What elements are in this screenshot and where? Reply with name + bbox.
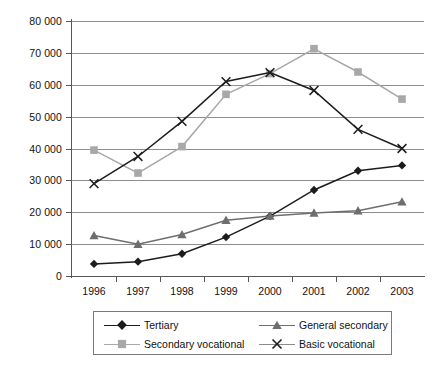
legend-item-general-secondary: General secondary xyxy=(259,317,388,333)
data-point xyxy=(178,143,186,151)
data-point xyxy=(222,91,230,99)
legend-item-basic-vocational: Basic vocational xyxy=(259,336,375,352)
data-point xyxy=(178,249,186,257)
data-point xyxy=(134,257,142,265)
legend-label-general-secondary: General secondary xyxy=(299,319,388,331)
data-point xyxy=(90,179,99,188)
series-line xyxy=(94,165,402,263)
data-point xyxy=(310,86,319,95)
series-general-secondary xyxy=(89,197,406,248)
data-point xyxy=(134,152,143,161)
legend-label-basic-vocational: Basic vocational xyxy=(299,338,375,350)
data-point xyxy=(354,68,362,76)
data-point xyxy=(398,161,406,169)
legend-item-tertiary: Tertiary xyxy=(104,317,178,333)
legend-label-tertiary: Tertiary xyxy=(144,319,178,331)
data-point xyxy=(134,169,142,177)
data-point xyxy=(354,167,362,175)
data-point xyxy=(310,45,318,53)
line-chart: 010 00020 00030 00040 00050 00060 00070 … xyxy=(0,0,448,368)
series-tertiary xyxy=(90,161,406,268)
data-point xyxy=(222,233,230,241)
legend-key-square-icon xyxy=(104,337,140,351)
data-point xyxy=(90,260,98,268)
legend-key-cross-icon xyxy=(259,337,295,351)
legend-key-triangle-icon xyxy=(259,318,295,332)
data-point xyxy=(310,186,318,194)
data-point xyxy=(89,231,98,239)
data-point xyxy=(354,125,363,134)
series-line xyxy=(94,202,402,244)
data-point xyxy=(178,117,187,126)
legend-key-diamond-icon xyxy=(104,318,140,332)
data-point xyxy=(90,146,98,154)
data-point xyxy=(398,144,407,153)
data-point xyxy=(397,197,406,205)
legend-label-secondary-vocational: Secondary vocational xyxy=(144,338,244,350)
data-point xyxy=(398,95,406,103)
chart-legend: Tertiary General secondary Secondary voc… xyxy=(93,311,392,355)
legend-item-secondary-vocational: Secondary vocational xyxy=(104,336,244,352)
